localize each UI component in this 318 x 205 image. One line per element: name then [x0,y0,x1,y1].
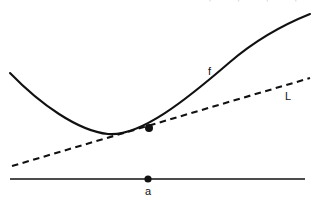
curve-label-f: f [208,66,211,77]
figure-canvas [0,0,318,205]
tangent-label-L: L [285,91,291,102]
tangent-line-figure: ¬ ¬ ¬ ¬ f L a [0,0,318,205]
tangency-point-dot [145,124,153,132]
curve-f [10,14,310,134]
axis-point-dot [144,175,151,182]
axis-point-label-a: a [145,186,151,197]
tangent-line-L [12,78,310,166]
